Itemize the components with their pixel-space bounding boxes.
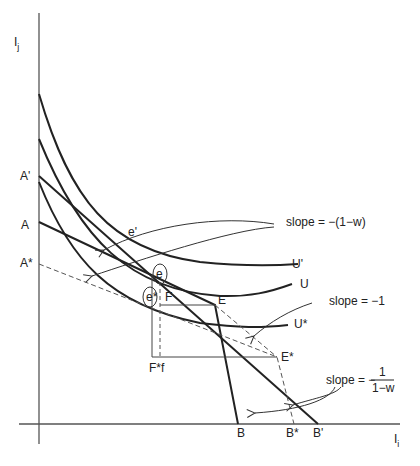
- label-a-prime: A': [20, 169, 30, 183]
- arrow-slope-3-a: [255, 387, 335, 413]
- annotation-slope-minus-1: slope = −1: [329, 294, 385, 308]
- budget-line-a-prime-b-prime: [39, 176, 318, 424]
- label-u: U: [300, 277, 309, 291]
- label-big-e: E: [218, 293, 226, 307]
- annotation-slope-fraction-prefix: slope = −: [326, 373, 375, 387]
- label-a: A: [21, 218, 29, 232]
- annotation-slope-1-minus-w: slope = −(1−w): [286, 215, 366, 229]
- arrow-slope-1-b: [92, 227, 274, 276]
- label-u-prime: U': [292, 257, 303, 271]
- label-big-e-star: E*: [281, 350, 294, 364]
- label-e-star: e*: [146, 290, 158, 304]
- label-b-star: B*: [286, 426, 299, 440]
- y-axis-label: Ij: [14, 35, 19, 52]
- indifference-curve-u: [39, 139, 292, 296]
- label-f: F: [165, 290, 172, 304]
- label-a-star: A*: [20, 256, 33, 270]
- label-b: B: [237, 426, 245, 440]
- label-b-prime: B': [313, 426, 323, 440]
- label-u-star: U*: [294, 317, 308, 331]
- diagram-canvas: Ij Ii A' A A* B B* B' U' U U* e' e e* E …: [0, 0, 420, 466]
- label-f-star-f: F*f: [149, 361, 165, 375]
- diagram-figure: Ij Ii A' A A* B B* B' U' U U* e' e e* E …: [0, 0, 420, 466]
- label-e-prime: e': [128, 225, 137, 239]
- annotation-slope-fraction-den: 1−w: [372, 381, 395, 395]
- x-axis-label: Ii: [394, 432, 399, 449]
- label-e: e: [156, 267, 163, 281]
- annotation-slope-fraction-num: 1: [379, 365, 386, 379]
